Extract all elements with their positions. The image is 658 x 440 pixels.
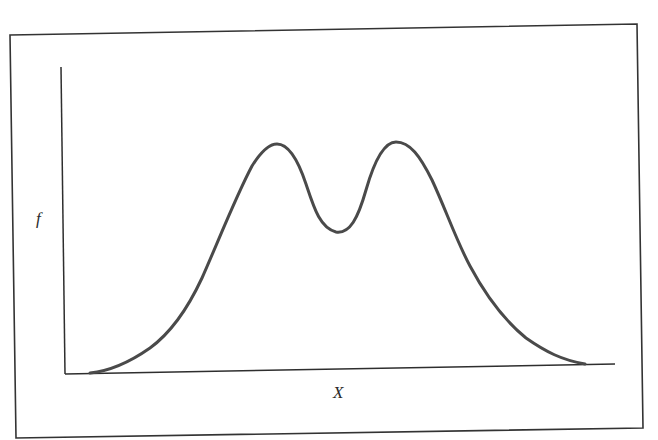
x-axis-label: X xyxy=(332,383,344,402)
x-axis xyxy=(65,364,615,374)
density-curve xyxy=(90,142,585,373)
figure-frame xyxy=(10,24,643,438)
y-axis-label: f xyxy=(36,209,43,228)
y-axis xyxy=(61,67,65,374)
bimodal-density-figure: f X xyxy=(0,0,658,440)
